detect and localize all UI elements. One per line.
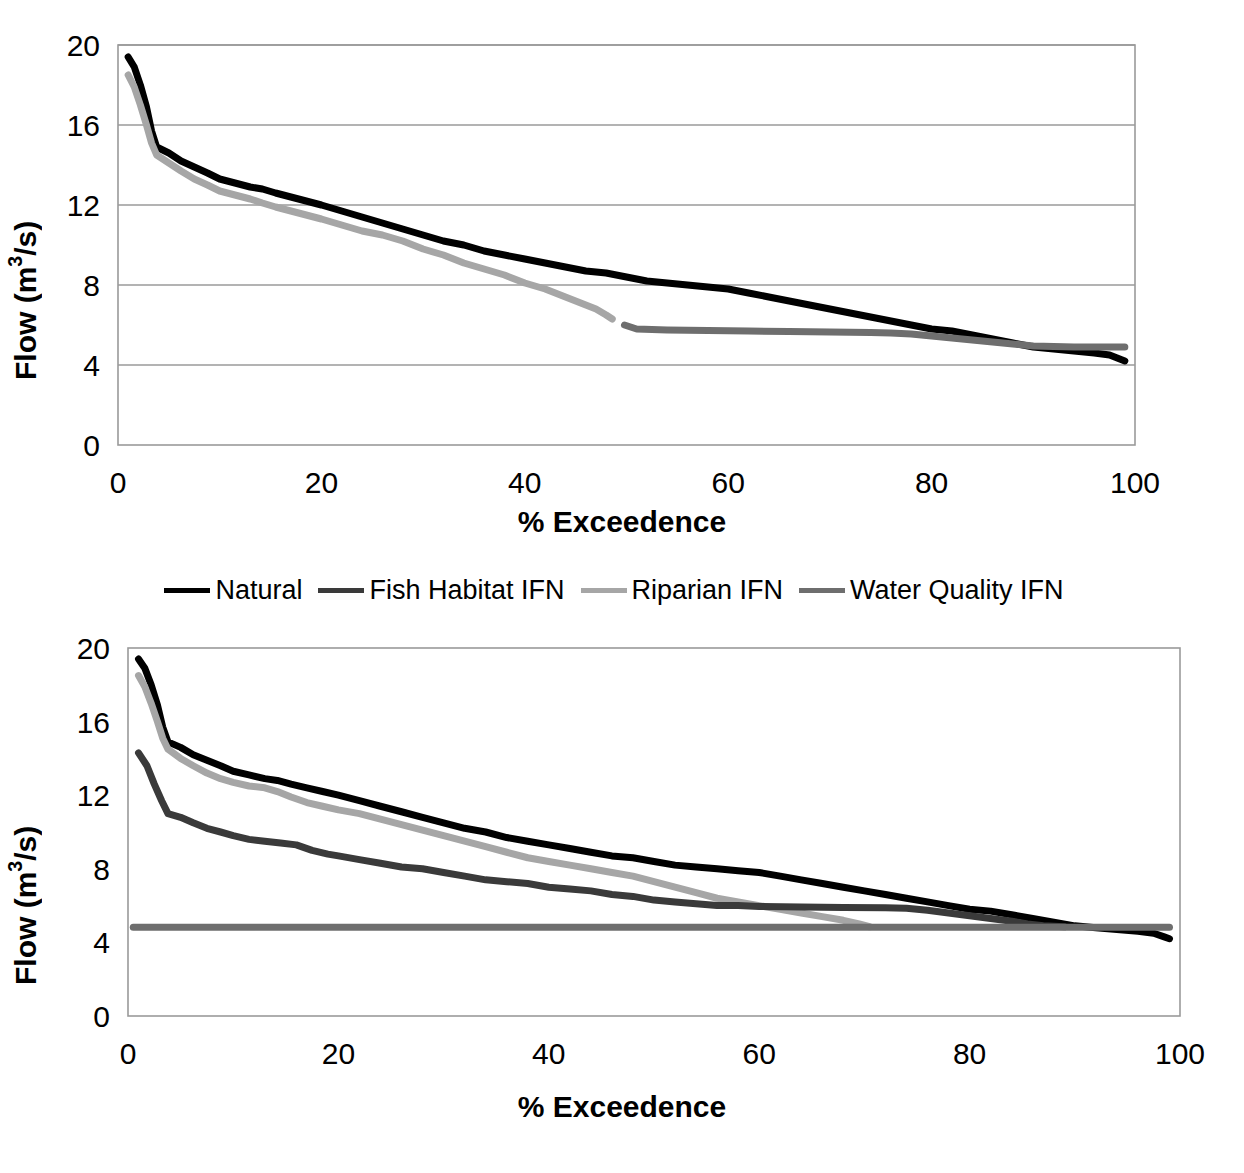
y-tick-label: 8 [83,269,100,302]
legend-label-natural: Natural [215,575,302,606]
legend-label-riparian-ifn: Riparian IFN [632,575,784,606]
legend-swatch-natural [164,588,210,593]
y-tick-label: 4 [83,349,100,382]
x-tick-label: 100 [1110,466,1160,499]
legend-item-riparian-ifn: Riparian IFN [581,575,800,606]
x-tick-label: 80 [915,466,948,499]
legend-label-water-quality-ifn: Water Quality IFN [850,575,1064,606]
y-tick-label: 20 [67,29,100,62]
y-tick-label: 12 [77,779,110,812]
x-axis-title-bottom: % Exceedence [0,1090,1244,1124]
x-tick-label: 100 [1155,1037,1205,1070]
x-axis-title-top: % Exceedence [0,505,1244,539]
y-tick-label: 20 [77,632,110,665]
series-line-water-quality-ifn [624,325,1124,347]
legend-swatch-water-quality-ifn [799,588,845,593]
series-line-riparian-ifn [139,676,870,927]
x-tick-label: 40 [508,466,541,499]
x-tick-label: 60 [743,1037,776,1070]
legend-item-fish-habitat-ifn: Fish Habitat IFN [318,575,580,606]
x-tick-label: 40 [532,1037,565,1070]
plot-border [128,648,1180,1016]
plot-border [118,45,1135,445]
x-tick-label: 20 [305,466,338,499]
y-tick-label: 16 [67,109,100,142]
figure-page: Flow (m3/s) 048121620020406080100 % Exce… [0,0,1244,1173]
y-tick-label: 8 [93,853,110,886]
y-tick-label: 16 [77,706,110,739]
legend-item-water-quality-ifn: Water Quality IFN [799,575,1080,606]
legend-swatch-riparian-ifn [581,588,627,593]
x-tick-label: 80 [953,1037,986,1070]
x-tick-label: 60 [712,466,745,499]
legend-swatch-fish-habitat-ifn [318,588,364,593]
legend: Natural Fish Habitat IFN Riparian IFN Wa… [0,575,1244,606]
chart-bottom: Flow (m3/s) 048121620020406080100 % Exce… [0,620,1244,1173]
y-tick-label: 4 [93,926,110,959]
chart-top: Flow (m3/s) 048121620020406080100 % Exce… [0,0,1244,560]
y-tick-label: 0 [93,1000,110,1033]
y-tick-label: 12 [67,189,100,222]
x-tick-label: 0 [110,466,127,499]
y-tick-label: 0 [83,429,100,462]
series-line-riparian-ifn [128,75,612,319]
legend-item-natural: Natural [164,575,318,606]
plot-area-top: 048121620020406080100 [0,0,1244,500]
legend-label-fish-habitat-ifn: Fish Habitat IFN [369,575,564,606]
x-tick-label: 0 [120,1037,137,1070]
x-tick-label: 20 [322,1037,355,1070]
plot-area-bottom: 048121620020406080100 [0,620,1244,1090]
